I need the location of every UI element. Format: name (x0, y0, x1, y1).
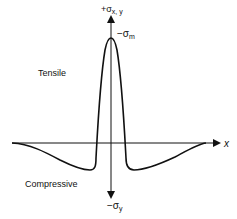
x-axis-label: x (223, 138, 230, 149)
peak-label: −σm (117, 28, 135, 40)
stress-diagram: +σx, y −σm Tensile Compressive x −σy (0, 0, 237, 219)
compressive-label: Compressive (25, 179, 78, 189)
stress-curve (12, 38, 206, 170)
y-bottom-label: −σy (107, 200, 123, 213)
y-top-label: +σx, y (101, 4, 123, 16)
tensile-label: Tensile (38, 68, 66, 78)
